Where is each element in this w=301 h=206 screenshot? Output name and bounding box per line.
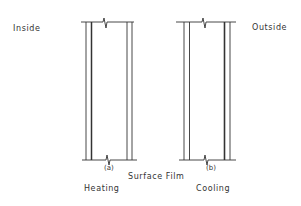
surface-film-label: Surface Film bbox=[128, 172, 184, 181]
outside-label: Outside bbox=[252, 23, 287, 32]
panel-a-top-break-line bbox=[81, 18, 134, 28]
inside-label: Inside bbox=[13, 24, 40, 33]
panel-a-tag: (a) bbox=[104, 164, 114, 172]
heating-label: Heating bbox=[84, 184, 120, 193]
panel-b-cooling bbox=[176, 18, 236, 165]
panel-b-tag: (b) bbox=[206, 164, 216, 172]
panel-a-heating bbox=[81, 18, 137, 165]
panel-b-top-break-line bbox=[176, 18, 236, 28]
cooling-label: Cooling bbox=[196, 184, 230, 193]
